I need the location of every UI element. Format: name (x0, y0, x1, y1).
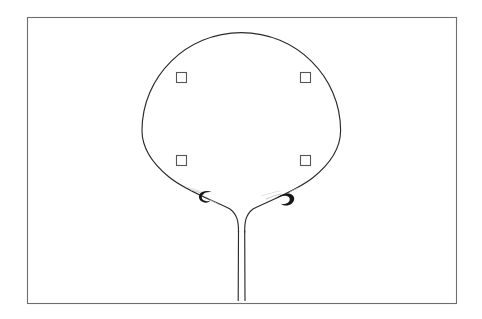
hook-right-glyph (276, 194, 295, 206)
marker-group (177, 73, 311, 166)
hook-left-wisp-tail (210, 200, 219, 205)
marker-bottom-left[interactable] (177, 156, 187, 166)
marker-top-right[interactable] (301, 73, 311, 83)
marker-top-left[interactable] (177, 73, 187, 83)
marker-bottom-right[interactable] (301, 156, 311, 166)
diagram-canvas: Balloon outline diagram Line drawing of … (0, 0, 482, 319)
figure-svg (0, 0, 482, 319)
hook-right-wisp-tail (290, 187, 301, 192)
outer-frame (28, 18, 457, 304)
balloon-body-outline (142, 33, 341, 232)
